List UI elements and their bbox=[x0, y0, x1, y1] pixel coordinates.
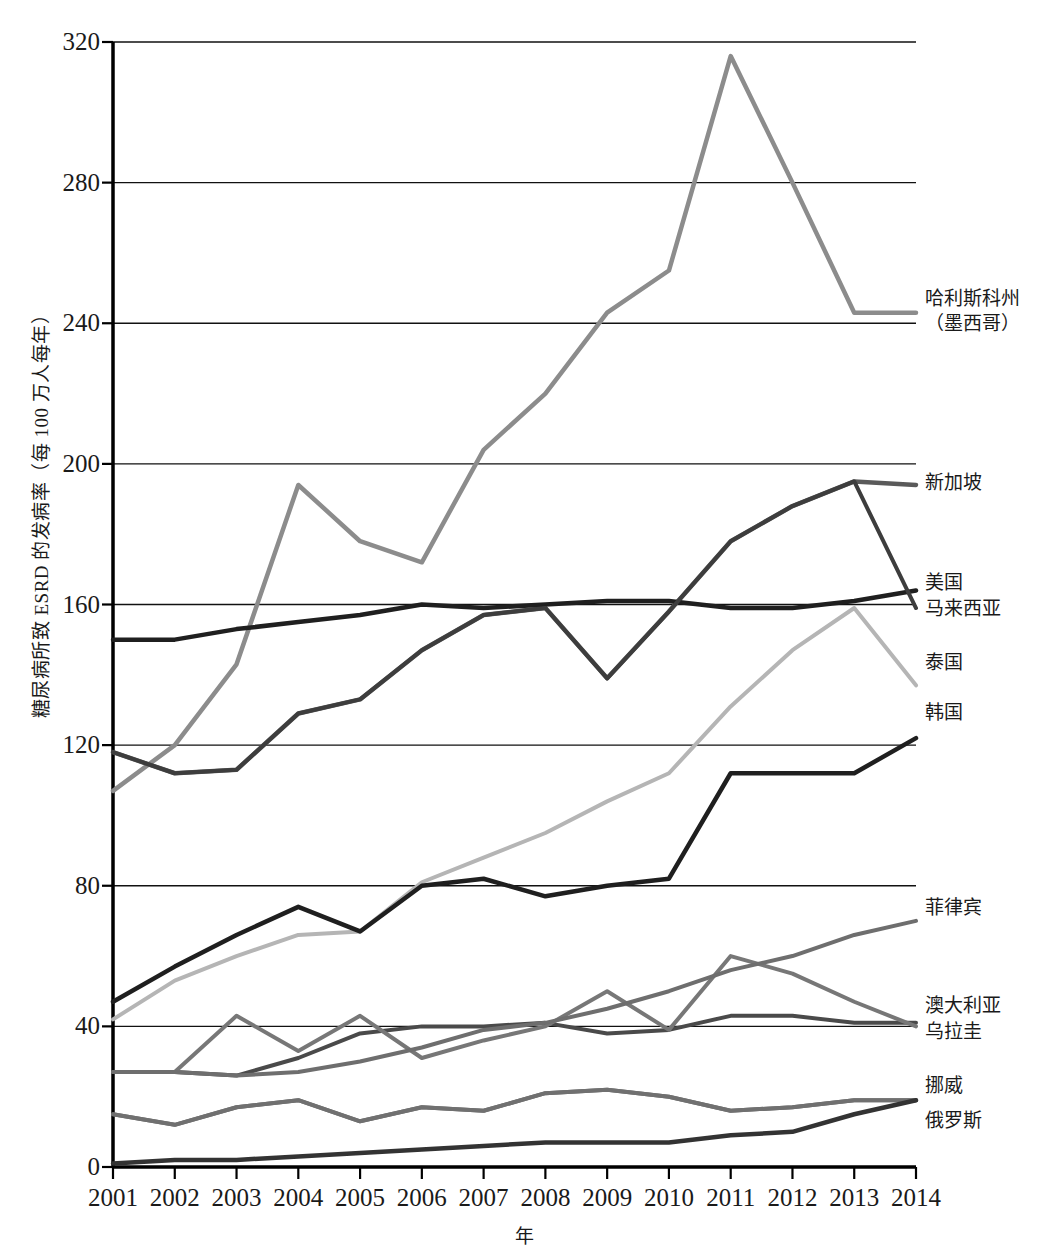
legend-label: 哈利斯科州（墨西哥） bbox=[925, 286, 1020, 336]
legend-label-line: 泰国 bbox=[925, 650, 963, 675]
legend-label: 菲律宾 bbox=[925, 895, 982, 920]
legend-label-line: 哈利斯科州 bbox=[925, 286, 1020, 311]
legend-label-line: 马来西亚 bbox=[925, 596, 1001, 621]
legend-label: 新加坡 bbox=[925, 470, 982, 495]
series-line bbox=[113, 481, 916, 773]
legend-label-line: （墨西哥） bbox=[925, 311, 1020, 336]
line-chart: 糖尿病所致 ESRD 的发病率（每 100 万人每年） 040801201602… bbox=[0, 0, 1049, 1259]
series-line bbox=[113, 481, 916, 773]
legend-label: 韩国 bbox=[925, 700, 963, 725]
legend-label: 俄罗斯 bbox=[925, 1108, 982, 1133]
legend-label-line: 澳大利亚 bbox=[925, 993, 1001, 1018]
legend-label: 挪威 bbox=[925, 1073, 963, 1098]
legend-label-line: 挪威 bbox=[925, 1073, 963, 1098]
series-line bbox=[113, 956, 916, 1072]
plot-area bbox=[0, 0, 1049, 1259]
legend-label-line: 菲律宾 bbox=[925, 895, 982, 920]
series-line bbox=[113, 738, 916, 1002]
legend-label-line: 乌拉圭 bbox=[925, 1019, 982, 1044]
legend-label-line: 俄罗斯 bbox=[925, 1108, 982, 1133]
legend-label-line: 韩国 bbox=[925, 700, 963, 725]
legend-label-line: 新加坡 bbox=[925, 470, 982, 495]
legend-label: 澳大利亚 bbox=[925, 993, 1001, 1018]
series-line bbox=[113, 921, 916, 1076]
x-tick-label: 2014 bbox=[880, 1185, 952, 1210]
legend-label: 美国 bbox=[925, 570, 963, 595]
legend-label: 乌拉圭 bbox=[925, 1019, 982, 1044]
series-line bbox=[113, 590, 916, 639]
series-line bbox=[113, 1090, 916, 1125]
series-line bbox=[113, 56, 916, 791]
x-axis-title: 年 bbox=[0, 1221, 1049, 1248]
legend-label: 马来西亚 bbox=[925, 596, 1001, 621]
page-corner-mark bbox=[1043, 1249, 1045, 1257]
legend-label-line: 美国 bbox=[925, 570, 963, 595]
legend-label: 泰国 bbox=[925, 650, 963, 675]
